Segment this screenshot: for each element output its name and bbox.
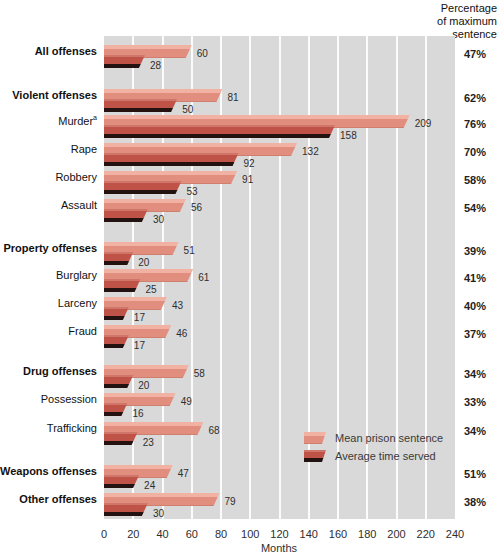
value-label-served: 20 [138,380,149,392]
percentage-value: 34% [464,367,486,381]
bar-served [104,181,182,194]
category-label: Weapons offenses [0,464,97,478]
value-label-mean: 209 [415,118,432,130]
bar-served [104,307,129,320]
percentage-value: 33% [464,395,486,409]
bar-served [104,279,141,292]
percentage-value: 54% [464,201,486,215]
category-label: Other offenses [19,492,97,506]
percentage-value: 37% [464,327,486,341]
category-label: Robbery [55,170,97,184]
percentage-value: 34% [464,424,486,438]
axis-tick-label: 120 [270,528,288,540]
bar-served [104,475,139,488]
category-label: Drug offenses [23,364,97,378]
axis-tick-label: 180 [358,528,376,540]
legend-item: Average time served [304,447,443,465]
bar-served [104,125,335,138]
bar-served [104,403,127,416]
axis-tick-label: 80 [215,528,227,540]
gridline [279,36,281,519]
value-label-mean: 43 [172,300,183,312]
value-label-mean: 68 [208,425,219,437]
bar-served [104,55,145,68]
value-label-mean: 60 [197,48,208,60]
x-axis-title: Months [261,542,297,554]
category-label: Burglary [56,268,97,282]
percentage-value: 70% [464,145,486,159]
category-label: Property offenses [3,241,97,255]
axis-tick-label: 0 [101,528,107,540]
value-label-mean: 58 [194,368,205,380]
footnote-marker: a [93,114,97,121]
percentage-value: 39% [464,244,486,258]
percentage-value: 51% [464,467,486,481]
percentage-value: 41% [464,271,486,285]
axis-tick-label: 220 [417,528,435,540]
axis-tick-label: 100 [241,528,259,540]
value-label-served: 53 [187,186,198,198]
category-label: Rape [71,142,97,156]
value-label-served: 24 [144,480,155,492]
value-label-mean: 132 [302,146,319,158]
category-label: Murdera [58,114,97,128]
legend-swatch-served-icon [304,450,326,462]
plot-panel: 6028815020915813292915356305120612543174… [104,36,455,519]
gridline [220,36,222,519]
bar-served [104,375,133,388]
value-label-served: 16 [132,408,143,420]
axis-tick-label: 240 [446,528,464,540]
value-label-served: 158 [340,130,357,142]
value-label-mean: 47 [178,468,189,480]
category-label: Trafficking [47,421,97,435]
value-label-served: 20 [138,257,149,269]
category-label: Assault [61,198,97,212]
bar-served [104,335,129,348]
bar-served [104,503,148,516]
percentage-value: 47% [464,47,486,61]
legend-label: Mean prison sentence [335,432,443,444]
value-label-mean: 56 [191,202,202,214]
bar-served [104,209,148,222]
value-label-mean: 46 [176,328,187,340]
axis-tick-label: 140 [300,528,318,540]
axis-tick-label: 200 [387,528,405,540]
percentage-value: 62% [464,91,486,105]
value-label-mean: 61 [198,272,209,284]
percentage-value: 76% [464,117,486,131]
value-label-mean: 51 [184,245,195,257]
value-label-served: 17 [134,312,145,324]
bar-served [104,99,177,112]
legend: Mean prison sentenceAverage time served [304,429,443,465]
axis-tick-label: 60 [186,528,198,540]
legend-swatch-mean-icon [304,432,326,444]
value-label-served: 30 [153,214,164,226]
percentage-value: 40% [464,299,486,313]
value-label-served: 50 [182,104,193,116]
value-label-mean: 49 [181,396,192,408]
axis-tick-label: 40 [156,528,168,540]
legend-item: Mean prison sentence [304,429,443,447]
value-label-served: 92 [244,158,255,170]
value-label-mean: 81 [227,92,238,104]
value-label-served: 30 [153,508,164,520]
percentage-value: 58% [464,173,486,187]
axis-tick-label: 20 [127,528,139,540]
value-label-mean: 91 [242,174,253,186]
category-label: All offenses [35,44,97,58]
category-label: Possession [41,392,97,406]
category-label: Violent offenses [12,88,97,102]
percentage-value: 38% [464,495,486,509]
value-label-served: 23 [143,437,154,449]
axis-tick-label: 160 [329,528,347,540]
value-label-served: 28 [150,60,161,72]
value-label-served: 25 [146,284,157,296]
value-label-served: 17 [134,340,145,352]
legend-label: Average time served [335,450,436,462]
gridline [249,36,251,519]
sentence-length-chart: Percentage of maximum sentence 602881502… [0,0,502,556]
bar-served [104,252,133,265]
value-label-mean: 79 [225,496,236,508]
bar-served [104,153,239,166]
category-label: Fraud [68,324,97,338]
